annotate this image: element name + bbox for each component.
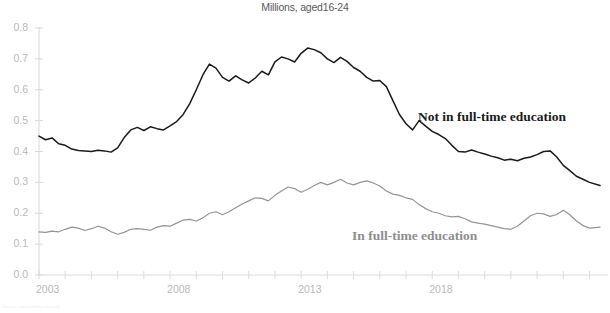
y-axis-tick-label: 0.7 <box>2 52 28 64</box>
y-axis-tick-label: 0.2 <box>2 206 28 218</box>
x-axis-tick-label: 2013 <box>298 283 321 295</box>
series-line-in-full-time-education <box>39 179 600 234</box>
y-axis-tick-label: 0.8 <box>2 21 28 33</box>
y-axis-tick-label: 0.3 <box>2 175 28 187</box>
chart-container: Millions, aged16-24 Not in full-time edu… <box>0 0 610 313</box>
y-axis-tick-label: 0.6 <box>2 83 28 95</box>
x-axis-tick-label: 2008 <box>167 283 190 295</box>
y-axis-tick-label: 0.5 <box>2 114 28 126</box>
y-axis-tick-label: 0.4 <box>2 145 28 157</box>
x-axis-tick-label: 2003 <box>36 283 59 295</box>
series-label-in-full-time-education: In full-time education <box>352 228 477 244</box>
series-label-not-in-full-time-education: Not in full-time education <box>418 109 566 125</box>
x-axis-tick-label: 2018 <box>429 283 452 295</box>
y-axis-tick-label: 0.0 <box>2 268 28 280</box>
chart-plot-area <box>0 0 610 313</box>
y-axis-tick-label: 0.1 <box>2 237 28 249</box>
chart-footnote: Source: Labour Force Survey <box>2 304 59 309</box>
